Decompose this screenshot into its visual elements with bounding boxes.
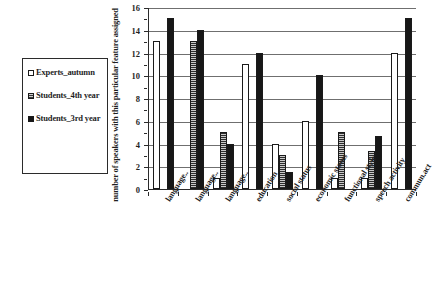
y-tick-mark	[144, 190, 148, 191]
legend-label: Students_4th year	[36, 90, 99, 100]
bar-group	[179, 8, 209, 189]
bar-group	[297, 8, 327, 189]
y-tick-mark-minor	[144, 156, 147, 157]
y-tick-label: 0	[136, 185, 140, 195]
y-tick-mark-minor	[144, 88, 147, 89]
bar-group	[268, 8, 298, 189]
x-axis-labels: language..language..language..educations…	[148, 192, 416, 288]
legend-item-experts-autumn: Experts_autumn	[28, 67, 103, 77]
bar	[316, 75, 323, 189]
plot-area: 0246810121416 language..language..langua…	[126, 8, 422, 288]
bar	[167, 18, 174, 189]
y-tick-mark-minor	[144, 65, 147, 66]
y-tick-label: 6	[136, 117, 140, 127]
y-tick-mark-minor	[144, 19, 147, 20]
bar	[153, 41, 160, 189]
legend-swatch-solid-icon	[28, 116, 34, 122]
y-tick-label: 12	[132, 49, 141, 59]
bar-group	[149, 8, 179, 189]
y-tick-mark-minor	[144, 110, 147, 111]
bar	[190, 41, 197, 189]
chart-legend: Experts_autumn Students_4th year Student…	[22, 58, 108, 174]
y-tick-label: 4	[136, 140, 140, 150]
legend-label: Experts_autumn	[36, 67, 95, 77]
y-tick-mark-minor	[144, 42, 147, 43]
bar	[220, 132, 227, 189]
bar-group	[238, 8, 268, 189]
legend-item-students-3rd-year: Students_3rd year	[28, 113, 103, 123]
x-tick-mark	[148, 192, 149, 196]
y-tick-label: 16	[132, 3, 141, 13]
legend-swatch-open-icon	[28, 70, 34, 76]
y-tick-label: 2	[136, 162, 140, 172]
y-tick-label: 8	[136, 94, 140, 104]
bar-group	[208, 8, 238, 189]
legend-item-students-4th-year: Students_4th year	[28, 90, 103, 100]
y-tick-mark-minor	[144, 179, 147, 180]
y-tick-label: 10	[132, 71, 141, 81]
bar	[256, 53, 263, 190]
y-tick-label: 14	[132, 26, 141, 36]
y-tick-mark-minor	[144, 133, 147, 134]
y-axis-title-text: number of speakers with this particular …	[110, 8, 120, 202]
y-axis-ticks: 0246810121416	[126, 8, 144, 190]
legend-label: Students_3rd year	[36, 113, 100, 123]
bar	[279, 155, 286, 189]
y-axis-title: number of speakers with this particular …	[104, 0, 126, 210]
bar	[405, 18, 412, 189]
legend-swatch-hatched-icon	[28, 93, 34, 99]
bar	[197, 30, 204, 189]
